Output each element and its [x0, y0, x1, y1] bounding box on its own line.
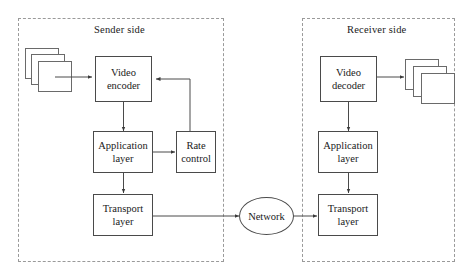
node-application-layer-sender-line1: Application: [98, 139, 148, 152]
node-transport-layer-receiver-line2: layer: [338, 215, 359, 228]
node-application-layer-receiver[interactable]: Application layer: [318, 131, 378, 173]
node-transport-layer-sender-line1: Transport: [103, 202, 143, 215]
node-application-layer-sender-line2: layer: [113, 152, 134, 165]
node-transport-layer-sender-line2: layer: [113, 215, 134, 228]
node-video-encoder-line2: encoder: [107, 79, 140, 92]
connector-layer: [0, 0, 473, 279]
diagram-canvas: Sender side Receiver side: [0, 0, 473, 279]
node-rate-control-line2: control: [181, 152, 211, 165]
node-video-decoder[interactable]: Video decoder: [320, 56, 377, 102]
node-transport-layer-receiver-line1: Transport: [328, 202, 368, 215]
node-rate-control-line1: Rate: [186, 139, 205, 152]
node-video-decoder-line1: Video: [336, 66, 361, 79]
node-network[interactable]: Network: [239, 197, 294, 235]
node-video-encoder-line1: Video: [111, 66, 136, 79]
node-application-layer-receiver-line2: layer: [338, 152, 359, 165]
node-application-layer-sender[interactable]: Application layer: [93, 131, 153, 173]
node-video-decoder-line2: decoder: [332, 79, 365, 92]
node-transport-layer-receiver[interactable]: Transport layer: [318, 194, 378, 236]
node-rate-control[interactable]: Rate control: [176, 131, 216, 173]
node-application-layer-receiver-line1: Application: [323, 139, 373, 152]
edge-rate-control-to-video-encoder: [156, 79, 190, 131]
node-transport-layer-sender[interactable]: Transport layer: [93, 194, 153, 236]
node-video-encoder[interactable]: Video encoder: [95, 56, 152, 102]
node-network-label: Network: [248, 211, 285, 222]
